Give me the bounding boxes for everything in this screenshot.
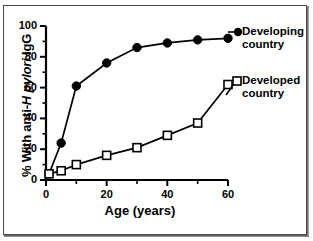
x-tick-label: 40	[147, 188, 187, 200]
data-point-open-square	[57, 167, 65, 175]
x-tick-label: 60	[208, 188, 248, 200]
y-tick-label: 80	[0, 50, 37, 62]
y-tick-label: 0	[0, 173, 37, 185]
legend-marker-open-square	[233, 77, 241, 85]
data-point-filled-circle	[72, 82, 80, 90]
legend-marker-filled-circle	[234, 28, 242, 36]
y-tick-label: 60	[0, 81, 37, 93]
data-point-filled-circle	[193, 36, 201, 44]
data-point-filled-circle	[102, 59, 110, 67]
chart-plot	[0, 0, 313, 241]
x-tick-label: 20	[87, 188, 127, 200]
y-tick-label: 40	[0, 111, 37, 123]
data-point-filled-circle	[163, 39, 171, 47]
data-point-open-square	[45, 170, 53, 178]
data-point-open-square	[72, 161, 80, 169]
y-tick-label: 100	[0, 19, 37, 31]
y-tick-label: 20	[0, 142, 37, 154]
series-line-1	[49, 38, 228, 174]
data-point-filled-circle	[133, 43, 141, 51]
data-point-filled-circle	[57, 139, 65, 147]
data-point-open-square	[103, 151, 111, 159]
data-point-filled-circle	[224, 34, 232, 42]
data-point-open-square	[163, 131, 171, 139]
x-tick-label: 0	[26, 188, 66, 200]
data-point-open-square	[194, 119, 202, 127]
data-point-open-square	[133, 144, 141, 152]
